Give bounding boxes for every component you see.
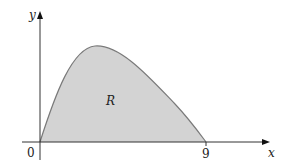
x-axis-arrow-icon <box>262 139 270 145</box>
y-axis-label: y <box>28 8 36 22</box>
shaded-region-r <box>40 46 206 142</box>
region-label: R <box>105 94 115 108</box>
x-axis-label: x <box>268 146 275 160</box>
origin-label: 0 <box>27 146 35 160</box>
y-axis-arrow-icon <box>37 11 43 19</box>
x-tick-label-9: 9 <box>202 147 210 161</box>
region-diagram: y x 0 9 R <box>0 0 288 168</box>
